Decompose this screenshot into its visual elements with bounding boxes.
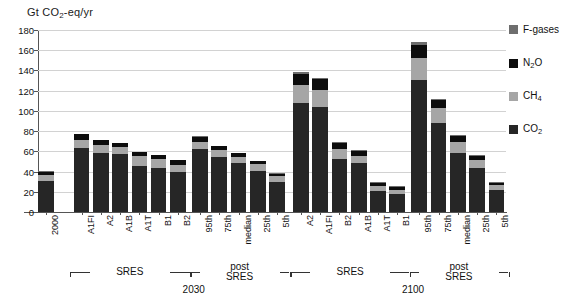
legend-label-f-gases: F-gases: [523, 24, 559, 35]
y-axis-tick-label: 180: [18, 26, 34, 35]
sres-2100-label: SRES: [310, 266, 390, 277]
x-axis-line: [24, 212, 507, 213]
x-axis-tick-mark: [239, 212, 240, 215]
x-axis-label-sres2030-a2: A2: [105, 215, 115, 226]
y-axis-title: Gt CO2-eq/yr: [27, 6, 93, 20]
x-axis-tick-mark: [178, 212, 179, 215]
x-axis-tick-mark: [439, 212, 440, 215]
year-2030-label: 2030: [154, 284, 234, 295]
bar-sres2100-a2[interactable]: [293, 71, 309, 212]
bar-segment-ch4: [132, 156, 148, 165]
bar-post2030-median[interactable]: [231, 153, 247, 212]
y-axis-tick-label: 140: [18, 66, 34, 75]
y-axis-title-prefix: Gt CO: [27, 6, 59, 18]
bar-segment-ch4: [192, 142, 208, 149]
bar-post2030-5th[interactable]: [269, 173, 285, 212]
bar-sres2100-a1t[interactable]: [370, 182, 386, 212]
x-axis-tick-mark: [339, 212, 340, 215]
gridline: [38, 91, 506, 92]
x-axis-label-post2100-75th: 75th: [443, 215, 453, 233]
emissions-stacked-bar-chart: Gt CO2-eq/yr 020406080100120140160180 F-…: [0, 0, 565, 301]
x-axis-label-sres2100-b1: B1: [401, 215, 411, 226]
bar-segment-co2: [192, 149, 208, 212]
bar-segment-co2: [170, 172, 186, 212]
y-axis-tick-label: 160: [18, 46, 34, 55]
x-axis-label-sres2030-b2: B2: [182, 215, 192, 226]
bar-sres2100-a1fi[interactable]: [312, 78, 328, 212]
bar-base-2000[interactable]: [38, 171, 54, 212]
bar-segment-n2o: [431, 100, 447, 108]
x-axis-tick-mark: [159, 212, 160, 215]
bar-sres2100-a1b[interactable]: [351, 150, 367, 212]
bar-segment-ch4: [450, 142, 466, 153]
bar-segment-co2: [370, 191, 386, 212]
y-axis-tick-mark: [34, 111, 38, 112]
bar-segment-co2: [431, 123, 447, 212]
x-axis-label-sres2030-b1: B1: [163, 215, 173, 226]
x-axis-label-sres2100-a2: A2: [305, 215, 315, 226]
bar-segment-co2: [332, 159, 348, 212]
bar-segment-co2: [250, 171, 266, 212]
bar-segment-n2o: [293, 74, 309, 85]
bar-post2030-75th[interactable]: [211, 146, 227, 212]
y-axis-tick-label: 40: [23, 167, 34, 176]
bar-sres2030-a1t[interactable]: [132, 152, 148, 212]
bar-segment-n2o: [312, 79, 328, 90]
y-axis-title-suffix: -eq/yr: [64, 6, 93, 18]
legend-swatch-ch4-icon: [509, 92, 518, 101]
bar-sres2030-a1b[interactable]: [112, 143, 128, 212]
legend-item-ch4: CH4: [509, 90, 542, 103]
bar-segment-ch4: [93, 145, 109, 153]
bar-sres2030-b1[interactable]: [151, 155, 167, 212]
y-axis-tick-label: 20: [23, 187, 34, 196]
x-axis-tick-mark: [378, 212, 379, 215]
y-axis-tick-mark: [34, 131, 38, 132]
y-axis-tick-mark: [34, 50, 38, 51]
bar-sres2100-b1[interactable]: [389, 186, 405, 212]
bar-segment-ch4: [170, 165, 186, 172]
legend-item-f-gases: F-gases: [509, 24, 559, 35]
x-axis-tick-mark: [277, 212, 278, 215]
legend-item-n2o: N2O: [509, 57, 542, 70]
legend-item-co2: CO2: [509, 123, 542, 136]
bar-post2030-95th[interactable]: [192, 136, 208, 212]
sres-2030-label: SRES: [90, 266, 170, 277]
bar-sres2030-a1fi[interactable]: [74, 134, 90, 212]
x-axis-tick-mark: [258, 212, 259, 215]
bar-post2100-25th[interactable]: [469, 155, 485, 212]
bar-segment-ch4: [293, 85, 309, 103]
bar-segment-co2: [411, 80, 427, 212]
bar-post2100-median[interactable]: [450, 135, 466, 212]
gridline: [38, 50, 506, 51]
bar-sres2030-b2[interactable]: [170, 160, 186, 212]
plot-area: 020406080100120140160180: [38, 30, 506, 212]
x-axis-tick-mark: [82, 212, 83, 215]
gridline: [38, 70, 506, 71]
x-axis-tick-mark: [359, 212, 360, 215]
x-axis-label-post2100-25th: 25th: [481, 215, 491, 233]
y-axis-tick-mark: [34, 151, 38, 152]
x-axis-label-post2100-95th: 95th: [423, 215, 433, 233]
bar-segment-ch4: [151, 159, 167, 167]
x-axis-label-sres2030-a1fi: A1FI: [86, 215, 96, 234]
bar-segment-co2: [269, 182, 285, 212]
x-axis-label-sres2100-a1b: A1B: [363, 215, 373, 232]
bar-sres2100-b2[interactable]: [332, 142, 348, 212]
year-2100-label: 2100: [373, 284, 453, 295]
bar-post2100-75th[interactable]: [431, 99, 447, 212]
y-axis-tick-label: 100: [18, 106, 34, 115]
bar-segment-ch4: [74, 140, 90, 148]
y-axis-tick-label: 60: [23, 147, 34, 156]
post-sres-2100-label: postSRES: [419, 262, 499, 282]
bar-post2030-25th[interactable]: [250, 161, 266, 212]
y-axis-tick-mark: [34, 70, 38, 71]
x-axis-tick-mark: [219, 212, 220, 215]
bar-sres2030-a2[interactable]: [93, 140, 109, 212]
x-axis-label-base-2000: 2000: [50, 215, 60, 235]
x-axis-label-post2100-median: median: [462, 215, 472, 245]
bar-post2100-5th[interactable]: [489, 182, 505, 212]
x-axis-label-sres2100-b2: B2: [343, 215, 353, 226]
bar-post2100-95th[interactable]: [411, 42, 427, 212]
x-axis-label-post2030-75th: 75th: [223, 215, 233, 233]
bar-segment-co2: [74, 148, 90, 212]
